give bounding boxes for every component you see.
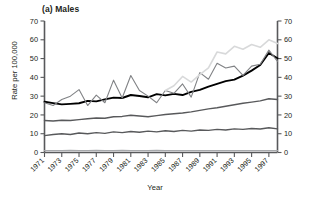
y-tick-label-left: 10 <box>30 129 38 138</box>
x-axis: 1971197319751977197919811983198519871989… <box>28 153 277 174</box>
y-tick-label-left: 50 <box>30 54 38 63</box>
x-tick-label: 1983 <box>132 156 150 174</box>
x-tick-label: 1997 <box>253 156 271 174</box>
y-tick-label-left: 0 <box>34 148 38 157</box>
x-tick-label: 1971 <box>28 156 46 174</box>
y-tick-label-right: 40 <box>284 73 292 82</box>
y-tick-label-right: 50 <box>284 54 292 63</box>
x-tick-label: 1973 <box>45 156 63 174</box>
y-tick-label-left: 70 <box>30 17 38 26</box>
x-tick-label: 1981 <box>115 156 133 174</box>
series-5-lower-grey <box>45 128 278 136</box>
x-tick-label: 1977 <box>80 156 98 174</box>
y-tick-label-right: 10 <box>284 129 292 138</box>
x-tick-label: 1989 <box>184 156 202 174</box>
y-tick-label-left: 60 <box>30 35 38 44</box>
x-tick-label: 1991 <box>201 156 219 174</box>
y-axis-right: 010203040506070 <box>278 17 293 158</box>
plot-canvas: 010203040506070 010203040506070 19711973… <box>0 0 310 203</box>
x-tick-label: 1995 <box>235 156 253 174</box>
x-tick-label: 1985 <box>149 156 167 174</box>
y-tick-label-left: 40 <box>30 73 38 82</box>
y-tick-label-left: 30 <box>30 92 38 101</box>
y-axis-left: 010203040506070 <box>30 17 45 158</box>
y-tick-label-right: 60 <box>284 35 292 44</box>
x-tick-label: 1979 <box>97 156 115 174</box>
y-tick-label-right: 70 <box>284 17 292 26</box>
x-tick-label: 1987 <box>166 156 184 174</box>
series-2-jagged-mid-grey <box>45 50 278 105</box>
y-tick-label-right: 30 <box>284 92 292 101</box>
y-tick-label-right: 0 <box>284 148 288 157</box>
series-4-mid-grey <box>45 99 278 121</box>
x-tick-label: 1993 <box>218 156 236 174</box>
data-series-layer <box>45 40 278 151</box>
y-tick-label-right: 20 <box>284 111 292 120</box>
y-tick-label-left: 20 <box>30 111 38 120</box>
chart-figure: (a) Males Rate per 100,000 Year 01020304… <box>0 0 310 203</box>
x-tick-label: 1975 <box>63 156 81 174</box>
